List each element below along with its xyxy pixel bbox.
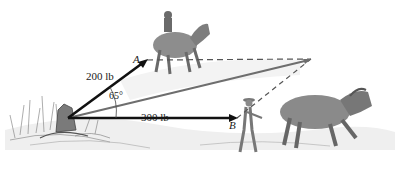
force-a-label: 200 lb — [86, 70, 114, 82]
force-b-label: 300 lb — [141, 111, 169, 123]
illustration — [0, 0, 395, 169]
point-a-label: A — [133, 53, 140, 65]
resultant-arrowhead — [303, 59, 311, 64]
point-b-label: B — [229, 119, 236, 131]
angle-label: 65° — [109, 90, 123, 101]
diagram-canvas: 200 lb A 65° 300 lb B — [0, 0, 395, 169]
